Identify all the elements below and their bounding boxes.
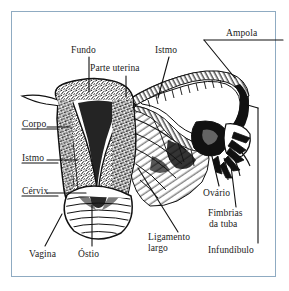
leader-vagina bbox=[45, 214, 62, 246]
leader-fimbrias bbox=[231, 166, 236, 207]
anatomy-figure: Fundo Parte uterina Istmo Ampola Corpo I… bbox=[0, 0, 289, 291]
label-istmo-tuba: Istmo bbox=[155, 45, 177, 56]
label-fimbrias-line2: da tuba bbox=[209, 219, 237, 230]
label-ampola: Ampola bbox=[226, 28, 257, 39]
label-ligamento-largo-line1: Ligamento bbox=[148, 232, 190, 243]
illustration-ink bbox=[22, 40, 283, 246]
label-istmo-utero: Istmo bbox=[22, 153, 44, 164]
label-ovario: Ovário bbox=[203, 188, 230, 199]
label-fimbrias-line1: Fimbrias bbox=[208, 208, 243, 219]
label-vagina: Vagina bbox=[29, 249, 56, 260]
label-parte-uterina: Parte uterina bbox=[90, 63, 140, 74]
label-ligamento-largo-line2: largo bbox=[148, 243, 168, 254]
label-infundibulo: Infundíbulo bbox=[208, 245, 254, 256]
label-corpo: Corpo bbox=[22, 119, 46, 130]
label-cervix: Cérvix bbox=[22, 186, 48, 197]
label-fundo: Fundo bbox=[71, 45, 96, 56]
label-ostio: Óstio bbox=[78, 249, 99, 260]
